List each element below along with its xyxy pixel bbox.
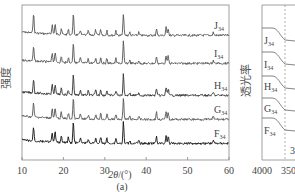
ir-series-label-H34: H34 <box>264 81 277 93</box>
ir-y-axis-label: 透光率 <box>239 64 253 97</box>
xrd-series-label-J34: J34 <box>214 20 224 32</box>
xrd-curve-H34 <box>22 74 229 97</box>
ir-x-tick-4000: 4000 <box>252 165 272 176</box>
ir-series-label-J34: J34 <box>264 35 274 47</box>
ir-x-tick-3500: 3500 <box>281 165 295 176</box>
xrd-curves <box>22 15 229 145</box>
xrd-x-axis-label: 2θ/(°) <box>108 169 131 181</box>
ir-series-label-G34: G34 <box>264 103 277 115</box>
xrd-x-tick-40: 40 <box>141 165 151 176</box>
xrd-curve-F34 <box>22 122 229 145</box>
ir-series-label-F34: F34 <box>264 125 276 137</box>
xrd-series-labels: J34I34H34G34F34 <box>214 20 227 140</box>
figure: 102030405060 J34I34H34G34F34 强度 2θ/(°) (… <box>0 0 295 192</box>
ir-annotation: 3 <box>290 145 295 156</box>
panel-a-caption: (a) <box>116 181 127 192</box>
xrd-series-label-I34: I34 <box>214 48 223 60</box>
xrd-x-tick-50: 50 <box>183 165 193 176</box>
xrd-y-axis-label: 强度 <box>0 67 13 89</box>
xrd-curve-I34 <box>22 41 229 65</box>
xrd-series-label-H34: H34 <box>214 80 227 92</box>
xrd-x-tick-10: 10 <box>17 165 27 176</box>
xrd-series-label-F34: F34 <box>214 128 226 140</box>
xrd-curve-G34 <box>22 99 229 121</box>
ir-series-labels: J34I34H34G34F34 <box>264 35 277 137</box>
xrd-x-tick-20: 20 <box>58 165 68 176</box>
xrd-series-label-G34: G34 <box>214 104 227 116</box>
xrd-curve-J34 <box>22 15 229 37</box>
ir-series-label-I34: I34 <box>264 59 273 71</box>
xrd-x-tick-60: 60 <box>224 165 234 176</box>
